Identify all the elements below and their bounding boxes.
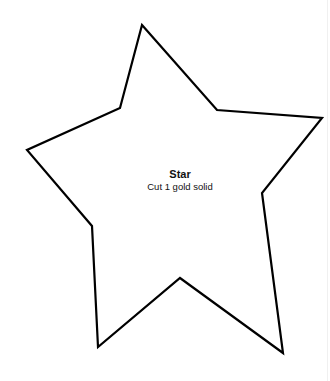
pattern-label: Star Cut 1 gold solid	[110, 168, 250, 193]
pattern-page: Star Cut 1 gold solid	[0, 0, 330, 381]
cut-instruction: Cut 1 gold solid	[110, 181, 250, 193]
shape-title: Star	[110, 168, 250, 181]
page-edge	[327, 0, 328, 381]
